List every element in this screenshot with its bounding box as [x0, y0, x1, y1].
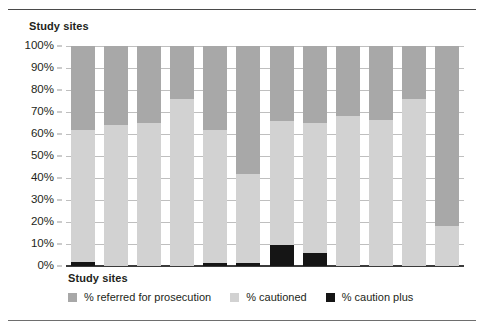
- figure-top-rule: [8, 9, 476, 10]
- legend-item-label: % caution plus: [342, 291, 414, 303]
- y-axis-tick-mark: [57, 112, 62, 113]
- y-axis: 0%10%20%30%40%50%60%70%80%90%100%: [0, 46, 62, 266]
- y-axis-tick-mark: [57, 266, 62, 267]
- bar-stack: [137, 46, 161, 266]
- bar-segment: [270, 245, 294, 266]
- plot-area: [66, 46, 464, 266]
- bar-segment: [203, 263, 227, 266]
- bar-segment: [104, 125, 128, 266]
- bar-segment: [203, 130, 227, 263]
- y-axis-tick-mark: [57, 46, 62, 47]
- bar-stack: [170, 46, 194, 266]
- legend-swatch-cautioned: [230, 293, 239, 302]
- bar-stack: [369, 46, 393, 266]
- y-axis-tick-mark: [57, 90, 62, 91]
- bar-segment: [236, 174, 260, 263]
- bar-segment: [369, 120, 393, 266]
- y-axis-tick-mark: [57, 68, 62, 69]
- legend-item-label: % cautioned: [246, 291, 307, 303]
- y-axis-tick-label: 60%: [31, 128, 54, 140]
- y-axis-tick-label: 50%: [31, 150, 54, 162]
- legend-item-label: % referred for prosecution: [84, 291, 211, 303]
- figure-container: Study sites 0%10%20%30%40%50%60%70%80%90…: [0, 0, 484, 330]
- bar-segment: [104, 46, 128, 125]
- bar-segment: [71, 130, 95, 262]
- y-axis-tick-mark: [57, 200, 62, 201]
- bar-segment: [402, 46, 426, 99]
- bar-segment: [402, 99, 426, 266]
- y-axis-tick-label: 40%: [31, 172, 54, 184]
- bar-stack: [336, 46, 360, 266]
- bar-segment: [303, 123, 327, 253]
- y-axis-tick-label: 100%: [25, 40, 54, 52]
- bar-segment: [369, 46, 393, 120]
- legend-swatch-prosecution: [68, 293, 77, 302]
- y-axis-tick-mark: [57, 156, 62, 157]
- bar-stack: [303, 46, 327, 266]
- y-axis-tick-mark: [57, 178, 62, 179]
- y-axis-tick-label: 0%: [37, 260, 54, 272]
- bar-segment: [303, 46, 327, 123]
- y-axis-tick-label: 30%: [31, 194, 54, 206]
- bar-segment: [137, 46, 161, 123]
- y-axis-tick-mark: [57, 222, 62, 223]
- bar-segment: [137, 123, 161, 266]
- chart-legend: % referred for prosecution% cautioned% c…: [68, 291, 413, 303]
- bar-stack: [402, 46, 426, 266]
- bar-stack: [435, 46, 459, 266]
- bar-segment: [71, 46, 95, 130]
- bar-segment: [170, 46, 194, 99]
- bar-stack: [270, 46, 294, 266]
- bar-segment: [435, 46, 459, 226]
- y-axis-tick-label: 70%: [31, 106, 54, 118]
- legend-swatch-caution-plus: [326, 293, 335, 302]
- figure-bottom-rule: [8, 320, 476, 321]
- bar-segment: [336, 116, 360, 266]
- bar-stack: [71, 46, 95, 266]
- y-axis-tick-mark: [57, 244, 62, 245]
- y-axis-tick-label: 80%: [31, 84, 54, 96]
- bar-segment: [435, 226, 459, 266]
- bar-segment: [236, 46, 260, 174]
- legend-item: % cautioned: [230, 291, 307, 303]
- legend-item: % caution plus: [326, 291, 414, 303]
- legend-item: % referred for prosecution: [68, 291, 211, 303]
- bar-stack: [203, 46, 227, 266]
- legend-spacer: [211, 297, 230, 298]
- bar-segment: [303, 253, 327, 266]
- legend-spacer: [307, 297, 326, 298]
- bar-stack: [104, 46, 128, 266]
- bottom-axis-title: Study sites: [68, 272, 128, 284]
- y-axis-tick-label: 20%: [31, 216, 54, 228]
- bar-segment: [270, 121, 294, 245]
- bar-segment: [203, 46, 227, 130]
- y-axis-tick-label: 90%: [31, 62, 54, 74]
- bar-stack: [236, 46, 260, 266]
- top-axis-title: Study sites: [29, 20, 89, 32]
- bar-segment: [236, 263, 260, 266]
- y-axis-tick-label: 10%: [31, 238, 54, 250]
- y-axis-tick-mark: [57, 134, 62, 135]
- bar-segment: [336, 46, 360, 116]
- bar-segment: [71, 262, 95, 266]
- bar-segment: [170, 99, 194, 266]
- bar-segment: [270, 46, 294, 121]
